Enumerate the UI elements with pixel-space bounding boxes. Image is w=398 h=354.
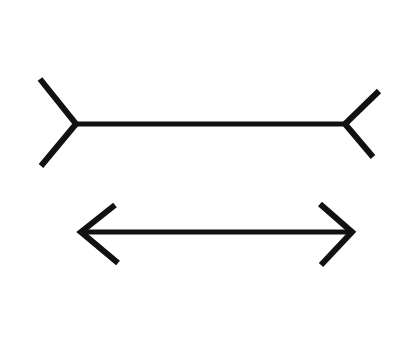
top-line-fins-outward [40, 79, 379, 166]
muller-lyer-figure [0, 0, 398, 354]
top-left-fin [40, 79, 76, 166]
top-right-fin [345, 91, 379, 157]
bottom-line-arrowheads [81, 204, 352, 265]
